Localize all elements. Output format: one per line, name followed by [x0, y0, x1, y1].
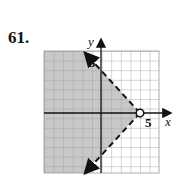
open-circle-point — [136, 109, 144, 117]
x-axis-label: x — [164, 114, 171, 129]
y-tick-5: 5 — [89, 55, 96, 70]
inequality-graph: y x 5 5 — [0, 0, 179, 178]
x-tick-5: 5 — [145, 115, 152, 130]
y-axis-label: y — [86, 34, 94, 49]
